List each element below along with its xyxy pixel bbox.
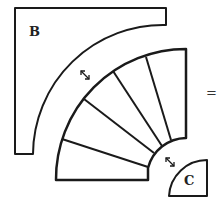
resize-diagonal-icon [166, 158, 174, 166]
piece-c-label: C [184, 174, 194, 187]
resize-diagonal-icon [80, 70, 90, 80]
fan-divider-2 [84, 99, 154, 153]
fan-divider-3 [113, 71, 162, 146]
fan-divider-1 [62, 139, 148, 167]
piece-b-label: B [29, 25, 40, 38]
diagram-canvas: B C = [0, 0, 224, 219]
equals-sign: = [206, 86, 217, 99]
